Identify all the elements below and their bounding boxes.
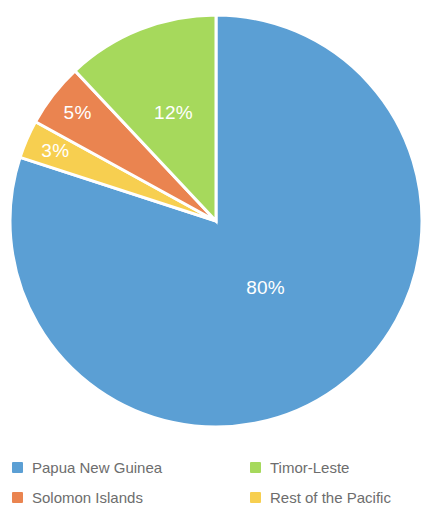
pie-label-rest-of-the-pacific: 3% xyxy=(41,140,69,161)
pie-label-solomon-islands: 5% xyxy=(64,102,92,123)
legend-item-rest-of-the-pacific[interactable]: Rest of the Pacific xyxy=(250,482,426,512)
legend-row: Papua New Guinea Timor-Leste xyxy=(12,452,426,482)
pie-label-papua-new-guinea: 80% xyxy=(246,277,285,298)
legend-swatch-icon xyxy=(12,492,23,503)
pie-label-timor-leste: 12% xyxy=(154,102,193,123)
legend-label: Timor-Leste xyxy=(270,460,349,475)
legend-swatch-icon xyxy=(250,492,261,503)
legend-item-papua-new-guinea[interactable]: Papua New Guinea xyxy=(12,452,250,482)
legend-swatch-icon xyxy=(250,462,261,473)
legend-item-timor-leste[interactable]: Timor-Leste xyxy=(250,452,426,482)
legend-label: Solomon Islands xyxy=(32,490,143,505)
legend-label: Rest of the Pacific xyxy=(270,490,391,505)
legend-label: Papua New Guinea xyxy=(32,460,162,475)
pie-chart-figure: 80% 3% 5% 12% Papua New Guinea Timor-Les… xyxy=(0,0,432,517)
chart-legend: Papua New Guinea Timor-Leste Solomon Isl… xyxy=(0,452,432,517)
pie-chart-plot-area: 80% 3% 5% 12% xyxy=(0,0,432,442)
legend-swatch-icon xyxy=(12,462,23,473)
legend-row: Solomon Islands Rest of the Pacific xyxy=(12,482,426,512)
pie-chart-svg: 80% 3% 5% 12% xyxy=(0,0,432,442)
legend-item-solomon-islands[interactable]: Solomon Islands xyxy=(12,482,250,512)
